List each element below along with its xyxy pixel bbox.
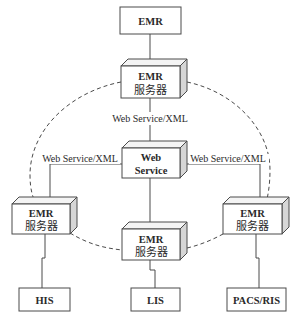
server-right-line1: EMR [240,208,265,219]
emr-server-bottom: EMR 服务器 [122,222,187,260]
server-bottom-line2: 服务器 [135,246,168,259]
edge-label-right: Web Service/XML [190,153,266,164]
pacs-ris-node: PACS/RIS [227,288,286,311]
lis-node: LIS [131,288,180,311]
emr-client-label: EMR [138,16,163,27]
emr-server-right: EMR 服务器 [223,197,289,234]
lis-label: LIS [147,295,164,306]
server-top-line1: EMR [138,71,163,82]
server-bottom-line1: EMR [139,234,164,245]
server-left-line2: 服务器 [25,220,58,233]
pacs-ris-label: PACS/RIS [233,295,280,306]
edge-label-top: Web Service/XML [112,113,188,124]
server-right-line2: 服务器 [236,220,269,233]
server-top-line2: 服务器 [134,84,167,97]
his-node: HIS [19,288,70,311]
web-service-node: Web Service [122,141,187,178]
web-service-line2: Service [135,165,168,176]
emr-client-node: EMR [120,7,181,34]
his-label: HIS [35,295,53,306]
emr-server-left: EMR 服务器 [12,197,77,234]
edge-label-left: Web Service/XML [42,153,118,164]
architecture-diagram: EMR EMR 服务器 Web Service/XML Web Service … [0,0,301,324]
web-service-line1: Web [141,152,162,163]
server-left-line1: EMR [29,208,54,219]
emr-server-top: EMR 服务器 [121,59,187,98]
